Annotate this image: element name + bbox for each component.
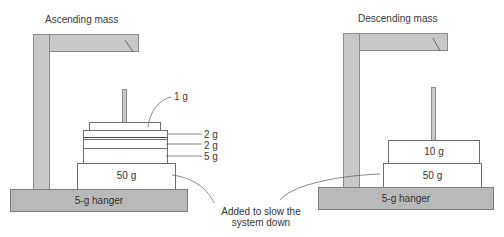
leader-lines: [0, 0, 504, 237]
annotation-line1: Added to slow the: [206, 206, 316, 217]
annotation-slow-down: Added to slow the system down: [206, 206, 316, 228]
annotation-line2: system down: [206, 217, 316, 228]
